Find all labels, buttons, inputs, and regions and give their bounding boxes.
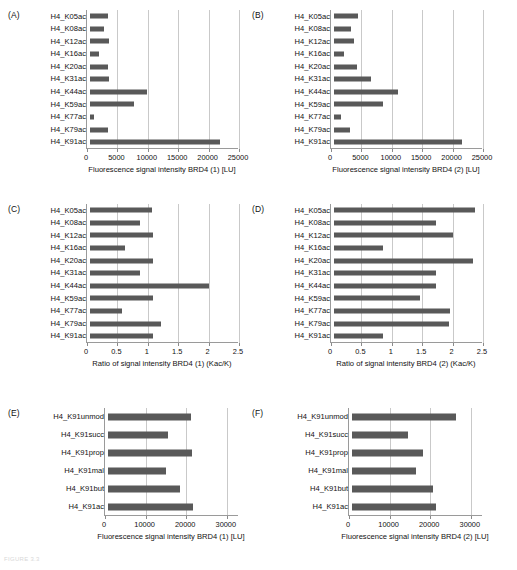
- bar-track: [90, 10, 238, 23]
- category-label: H4_K05ac: [252, 207, 334, 215]
- bar: [334, 233, 453, 238]
- x-tick-label: 20000: [441, 154, 462, 161]
- x-tick-label: 2.5: [477, 348, 487, 355]
- bar-row: H4_K20ac: [252, 60, 482, 73]
- category-label: H4_K91ac: [8, 503, 108, 511]
- category-label: H4_K91mal: [8, 467, 108, 475]
- bar: [334, 321, 449, 326]
- bar: [90, 208, 152, 213]
- bar-row: H4_K91prop: [8, 444, 238, 462]
- bar-track: [334, 280, 482, 293]
- bar-row: H4_K91unmod: [252, 408, 482, 426]
- x-axis-title: Fluorescence signal intensity BRD4 (2) […: [282, 533, 517, 541]
- category-label: H4_K31ac: [252, 269, 334, 277]
- x-axis-tick: [390, 516, 391, 519]
- bar-row: H4_K91succ: [8, 426, 238, 444]
- x-axis-tick: [361, 343, 362, 346]
- bar-row: H4_K91ac: [8, 136, 238, 149]
- bar: [108, 504, 193, 511]
- x-tick-label: 5000: [108, 154, 124, 161]
- bar-row: H4_K12ac: [252, 35, 482, 48]
- bar-track: [108, 462, 238, 480]
- bar: [334, 334, 383, 339]
- x-tick-label: 25000: [228, 154, 249, 161]
- bar: [90, 271, 140, 276]
- bar-track: [90, 48, 238, 61]
- x-tick-label: 1: [145, 348, 149, 355]
- bar-row: H4_K12ac: [8, 229, 238, 242]
- bar: [352, 504, 436, 511]
- bar-track: [334, 23, 482, 36]
- bar-track: [352, 444, 482, 462]
- bar-rows-c: H4_K05acH4_K08acH4_K12acH4_K16acH4_K20ac…: [8, 204, 238, 343]
- bar-track: [90, 60, 238, 73]
- category-label: H4_K08ac: [252, 25, 334, 33]
- category-label: H4_K91unmod: [8, 413, 108, 421]
- bar-track: [90, 280, 238, 293]
- figure-root: (A)H4_K05acH4_K08acH4_K12acH4_K16acH4_K2…: [0, 0, 517, 570]
- bar-row: H4_K59ac: [8, 292, 238, 305]
- bar: [90, 77, 109, 82]
- category-label: H4_K31ac: [8, 269, 90, 277]
- x-axis-tick: [361, 149, 362, 152]
- bar-track: [90, 23, 238, 36]
- x-axis-tick: [331, 149, 332, 152]
- bar: [334, 208, 475, 213]
- x-tick-label: 2.5: [233, 348, 243, 355]
- category-label: H4_K16ac: [252, 244, 334, 252]
- bar: [90, 296, 153, 301]
- bar: [352, 468, 416, 475]
- bar-track: [90, 242, 238, 255]
- bar: [108, 414, 191, 421]
- bar-track: [334, 254, 482, 267]
- chart-panel-b: (B)H4_K05acH4_K08acH4_K12acH4_K16acH4_K2…: [252, 10, 508, 189]
- category-label: H4_K91prop: [8, 449, 108, 457]
- category-label: H4_K79ac: [8, 126, 90, 134]
- x-axis-title: Ratio of signal intensity BRD4 (2) (Kac/…: [264, 360, 517, 368]
- category-label: H4_K08ac: [252, 219, 334, 227]
- category-label: H4_K77ac: [8, 307, 90, 315]
- category-label: H4_K91ac: [252, 332, 334, 340]
- category-label: H4_K12ac: [252, 232, 334, 240]
- category-label: H4_K44ac: [252, 282, 334, 290]
- bar-row: H4_K05ac: [252, 204, 482, 217]
- bar-track: [334, 330, 482, 343]
- bar-row: H4_K77ac: [8, 305, 238, 318]
- x-axis-tick: [146, 516, 147, 519]
- x-axis-tick: [117, 149, 118, 152]
- bar: [90, 233, 153, 238]
- bar: [334, 52, 344, 57]
- bar-track: [334, 317, 482, 330]
- bar-row: H4_K77ac: [252, 305, 482, 318]
- x-tick-label: 30000: [216, 521, 237, 528]
- bar-track: [334, 292, 482, 305]
- bar-row: H4_K08ac: [8, 23, 238, 36]
- bar-row: H4_K77ac: [8, 111, 238, 124]
- bar-row: H4_K91mal: [252, 462, 482, 480]
- category-label: H4_K59ac: [252, 101, 334, 109]
- bar-row: H4_K05ac: [252, 10, 482, 23]
- x-tick-label: 10000: [381, 154, 402, 161]
- category-label: H4_K12ac: [8, 232, 90, 240]
- bar: [90, 89, 147, 94]
- x-axis-tick: [483, 149, 484, 152]
- bar-track: [334, 73, 482, 86]
- category-label: H4_K91mal: [252, 467, 352, 475]
- x-axis-tick: [453, 149, 454, 152]
- x-tick-label: 1.5: [416, 348, 426, 355]
- bar: [90, 52, 99, 57]
- x-axis-tick: [422, 343, 423, 346]
- bar-row: H4_K16ac: [252, 242, 482, 255]
- x-tick-label: 0: [102, 521, 106, 528]
- category-label: H4_K20ac: [252, 257, 334, 265]
- bar-track: [334, 98, 482, 111]
- bar-row: H4_K31ac: [252, 73, 482, 86]
- bar: [334, 258, 473, 263]
- bar-row: H4_K91ac: [252, 330, 482, 343]
- x-axis-tick: [483, 343, 484, 346]
- bar-row: H4_K16ac: [8, 48, 238, 61]
- bar: [90, 334, 153, 339]
- bar-track: [334, 86, 482, 99]
- bar: [90, 220, 140, 225]
- bar: [334, 14, 358, 19]
